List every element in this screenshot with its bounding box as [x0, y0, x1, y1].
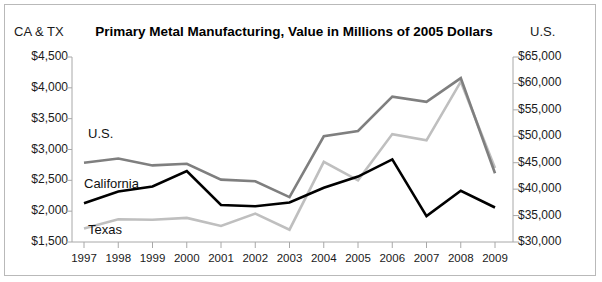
series-label-california: California [84, 176, 139, 191]
series-label-us: U.S. [88, 126, 113, 141]
series-label-texas: Texas [88, 222, 122, 237]
series-line-us [84, 78, 495, 197]
series-line-california [84, 159, 495, 216]
plot-area [0, 0, 602, 282]
series-line-texas [84, 82, 495, 230]
